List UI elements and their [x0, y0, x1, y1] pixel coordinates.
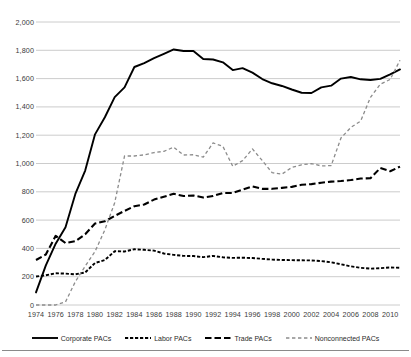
legend-item-corporate-pacs[interactable]: Corporate PACs: [32, 334, 111, 342]
long-dash-line-swatch: [205, 334, 231, 342]
y-axis-tick-label: 200: [0, 272, 34, 281]
y-axis-tick-label: 1,800: [0, 46, 34, 55]
legend-item-nonconnected-pacs[interactable]: Nonconnected PACs: [286, 334, 379, 342]
series-line-labor-pacs: [36, 249, 400, 276]
x-axis-tick-label: 2010: [377, 310, 403, 319]
solid-line-swatch: [32, 334, 58, 342]
series-line-trade-pacs: [36, 167, 400, 260]
y-axis-tick-label: 600: [0, 216, 34, 225]
y-axis-tick-label: 1,200: [0, 131, 34, 140]
gray-dash-line-swatch: [286, 334, 312, 342]
y-axis-tick-label: 2,000: [0, 18, 34, 27]
short-dash-line-swatch: [125, 334, 151, 342]
y-axis-tick-label: 0: [0, 301, 34, 310]
chart-legend: Corporate PACsLabor PACsTrade PACsNoncon…: [0, 330, 411, 346]
y-axis-tick-label: 1,600: [0, 74, 34, 83]
y-axis-tick-label: 800: [0, 187, 34, 196]
legend-label: Trade PACs: [234, 335, 271, 342]
plot-area: [0, 0, 411, 357]
legend-label: Nonconnected PACs: [315, 335, 379, 342]
y-axis-tick-label: 1,400: [0, 102, 34, 111]
pac-count-line-chart: 02004006008001,0001,2001,4001,6001,8002,…: [0, 0, 411, 357]
series-lines: [36, 49, 400, 305]
legend-item-labor-pacs[interactable]: Labor PACs: [125, 334, 191, 342]
legend-label: Corporate PACs: [61, 335, 111, 342]
y-axis-tick-label: 400: [0, 244, 34, 253]
gridlines: [36, 22, 400, 305]
legend-item-trade-pacs[interactable]: Trade PACs: [205, 334, 271, 342]
legend-label: Labor PACs: [154, 335, 191, 342]
y-axis-tick-label: 1,000: [0, 159, 34, 168]
bottom-divider-rule: [2, 350, 409, 351]
